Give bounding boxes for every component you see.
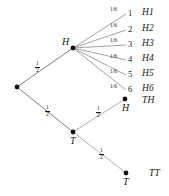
outcome-label-h6: H6 [142,84,154,94]
edge-label-die-1: 1/6 [110,7,117,13]
node-label-heads: H [62,37,69,47]
node-root [15,85,20,90]
node-tails [71,130,76,135]
fraction-one-half: 1 2 [45,105,50,117]
die-face-3: 3 [128,40,132,49]
die-face-1: 1 [128,9,132,18]
outcome-label-h4: H4 [142,54,154,64]
fraction-denominator: 2 [99,154,104,161]
fraction-denominator: 2 [35,67,40,74]
outcome-label-tt: TT [149,169,160,179]
edge-label-die-2: 1/6 [110,23,117,29]
node-heads [71,46,76,51]
fraction-one-half: 1 2 [96,106,101,118]
fraction-one-half: 1 2 [99,148,104,160]
edge-heads-to-die-1 [73,14,126,48]
fraction-denominator: 2 [45,111,50,118]
edge-label-die-6: 1/6 [110,84,117,90]
edge-label-tails-to-heads: 1 2 [96,104,101,120]
die-face-4: 4 [128,55,132,64]
edge-label-die-5: 1/6 [110,69,117,75]
outcome-label-th: TH [142,96,155,106]
outcome-label-h2: H2 [142,24,154,34]
outcome-label-h3: H3 [142,39,154,49]
probability-tree-diagram: H T H T 1 2 1 2 1 2 1 2 1/6 1/6 1/6 1/6 … [0,0,169,196]
node-tails-tails [124,171,129,176]
edge-root-to-heads [17,48,73,87]
edge-label-die-4: 1/6 [110,54,117,60]
node-label-tails-tails: T [123,177,129,187]
node-label-tails-heads: H [122,103,129,113]
node-label-tails: T [70,136,76,146]
outcome-label-h5: H5 [142,69,154,79]
edge-label-root-to-heads: 1 2 [35,59,40,75]
die-face-5: 5 [128,70,132,79]
fraction-denominator: 2 [96,112,101,119]
fraction-one-half: 1 2 [35,61,40,73]
edge-label-die-3: 1/6 [110,38,117,44]
outcome-label-h1: H1 [142,8,154,18]
edge-label-root-to-tails: 1 2 [45,103,50,119]
edge-heads-to-die-5 [73,48,126,75]
node-tails-heads [123,97,128,102]
edge-label-tails-to-tails: 1 2 [99,146,104,162]
die-face-2: 2 [128,25,132,34]
die-face-6: 6 [128,85,132,94]
